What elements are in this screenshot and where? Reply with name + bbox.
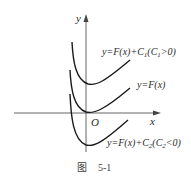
curve-upper-label: y=F(x)+C1(C1>0) bbox=[101, 46, 177, 59]
origin-label: O bbox=[91, 116, 99, 128]
y-axis-label: y bbox=[75, 12, 81, 24]
curve-lower-label: y=F(x)+C2(C2<0) bbox=[106, 137, 182, 150]
caption-number: 5-1 bbox=[98, 162, 111, 173]
caption-prefix: 图 bbox=[77, 162, 87, 173]
curve-middle-label: y=F(x) bbox=[136, 79, 166, 91]
x-axis-label: x bbox=[149, 115, 155, 127]
integral-curves-diagram: y x O y=F(x)+C1(C1>0) y=F(x) y=F(x)+C2(C… bbox=[0, 0, 191, 185]
y-axis-arrow-icon bbox=[84, 14, 89, 22]
